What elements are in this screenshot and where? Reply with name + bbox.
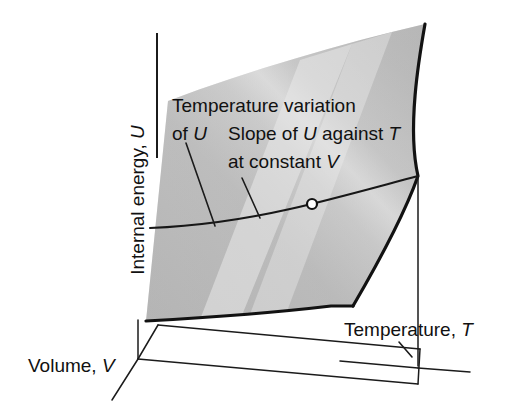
floor-front-edge [138, 359, 418, 384]
u-axis-label: Internal energy, U [127, 125, 148, 275]
tangent-point-marker [307, 199, 317, 209]
annotation-temperature-variation-line2: of U [172, 123, 207, 144]
volume-axis-line [112, 359, 138, 400]
figure-root: Internal energy, U Temperature variation… [0, 0, 506, 420]
volume-axis-label: Volume, V [28, 355, 117, 376]
temperature-axis-line [418, 368, 470, 372]
u-axis-label-group: Internal energy, U [127, 125, 148, 275]
temperature-axis-label: Temperature, T [344, 319, 474, 340]
annotation-temperature-variation-line1: Temperature variation [172, 95, 356, 116]
annotation-slope-line1: Slope of U against T [228, 123, 402, 144]
annotation-slope-line2: at constant V [228, 151, 341, 172]
temperature-axis-line-inner [340, 361, 418, 368]
leader-line-temperature-axis [399, 342, 412, 357]
floor-left-edge [138, 325, 158, 359]
energy-surface-diagram: Internal energy, U Temperature variation… [0, 0, 506, 420]
